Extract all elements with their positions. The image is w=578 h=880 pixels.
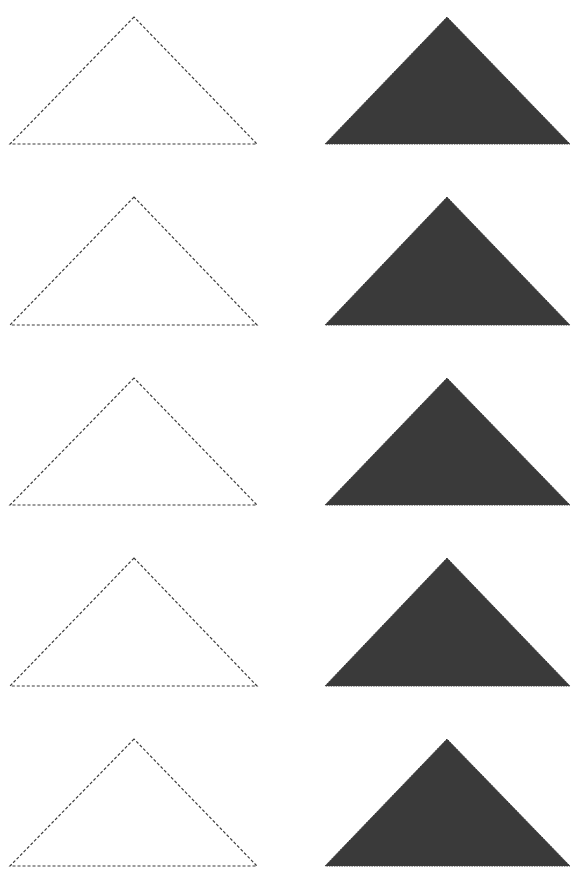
filled-triangle xyxy=(325,378,570,505)
dashed-outline-triangle xyxy=(10,739,257,866)
triangle-row xyxy=(10,739,570,866)
filled-triangle xyxy=(325,558,570,686)
dashed-outline-triangle xyxy=(10,558,257,686)
dashed-outline-triangle xyxy=(10,17,257,144)
triangle-row xyxy=(10,558,570,686)
filled-triangle xyxy=(325,197,570,325)
filled-triangle xyxy=(325,739,570,866)
triangle-row xyxy=(10,197,570,325)
dashed-outline-triangle xyxy=(10,378,257,505)
triangle-worksheet xyxy=(0,0,578,880)
triangle-row xyxy=(10,17,570,144)
triangle-row xyxy=(10,378,570,505)
dashed-outline-triangle xyxy=(10,197,257,325)
filled-triangle xyxy=(325,17,570,144)
